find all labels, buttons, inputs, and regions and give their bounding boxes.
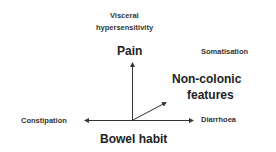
non-colonic-axis-arrow (132, 103, 166, 121)
somatisation-label: Somatisation (201, 48, 248, 56)
hypersensitivity-label: hypersensitivity (96, 24, 153, 32)
constipation-label: Constipation (21, 117, 67, 125)
visceral-label: Visceral (110, 12, 139, 20)
diarrhoea-label: Diarrhoea (201, 116, 236, 124)
bowel-habit-label: Bowel habit (100, 133, 167, 146)
pain-label: Pain (117, 45, 142, 58)
non-colonic-label: Non-colonic (172, 73, 241, 86)
features-label: features (187, 89, 234, 102)
